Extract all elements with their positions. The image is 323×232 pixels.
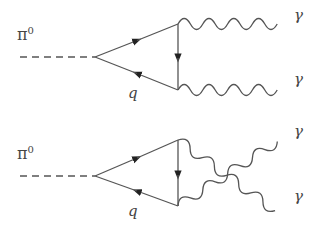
quark-line-upper: [95, 158, 137, 176]
diagram-direct: [20, 19, 277, 96]
photon-label-1: γ: [294, 124, 303, 139]
pion-label: π0: [17, 145, 34, 162]
photon-line-crossed-down: [175, 136, 278, 215]
quark-label: q: [128, 86, 138, 101]
diagram-crossed: [20, 136, 280, 215]
photon-label-1: γ: [294, 8, 303, 23]
quark-line-upper: [95, 41, 137, 58]
pion-label: π0: [17, 26, 34, 43]
quark-label: q: [128, 204, 138, 219]
photon-label-2: γ: [294, 189, 303, 204]
feynman-diagrams: [0, 0, 323, 232]
photon-line-lower: [178, 85, 277, 96]
quark-line-lower: [137, 191, 178, 206]
photon-line-upper: [178, 19, 277, 30]
photon-label-2: γ: [294, 72, 303, 87]
quark-line-lower: [137, 74, 178, 91]
photon-line-crossed-up: [175, 137, 280, 210]
